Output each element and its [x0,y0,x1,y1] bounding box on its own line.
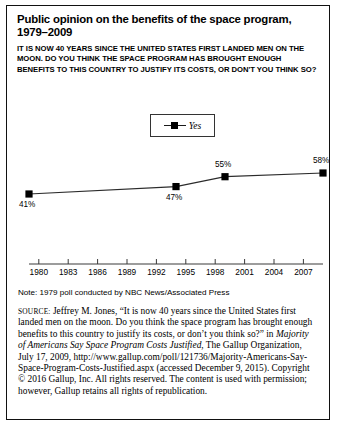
source-text-part1: Jeffrey M. Jones, “It is now 40 years si… [18,306,312,339]
data-label-47: 47% [166,193,182,202]
chart-legend: Yes [150,114,215,137]
x-tick-1992: 1992 [142,267,170,277]
x-tick-1995: 1995 [172,267,200,277]
data-label-55: 55% [215,160,231,169]
x-tick-1998: 1998 [201,267,229,277]
x-tick-1989: 1989 [113,267,141,277]
x-tick-1986: 1986 [84,267,112,277]
legend-line-marker-icon [164,121,186,130]
survey-question-text: IT IS NOW 40 YEARS SINCE THE UNITED STAT… [17,44,319,75]
x-tick-2001: 2001 [231,267,259,277]
chart-plot-area: Yes 41%47%55%58% 19801983198619891992199… [7,78,331,288]
legend-label-yes: Yes [189,120,201,131]
line-chart-svg [7,78,331,288]
x-tick-2007: 2007 [289,267,317,277]
x-tick-1983: 1983 [54,267,82,277]
figure-frame: Public opinion on the benefits of the sp… [6,5,330,420]
x-axis [29,259,323,264]
chart-note: Note: 1979 poll conducted by NBC News/As… [18,288,318,298]
title-block: Public opinion on the benefits of the sp… [17,13,317,39]
source-citation: source: Jeffrey M. Jones, “It is now 40 … [18,306,318,397]
source-label: source: [18,307,51,316]
x-tick-2004: 2004 [260,267,288,277]
data-label-58: 58% [313,156,329,165]
page-title: Public opinion on the benefits of the sp… [17,13,317,39]
x-tick-1980: 1980 [25,267,53,277]
data-label-41: 41% [19,200,35,209]
